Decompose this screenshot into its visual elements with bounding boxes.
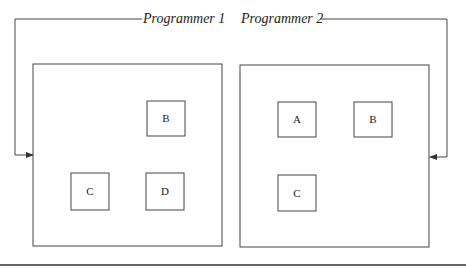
- programmer2-label: Programmer 2: [241, 12, 323, 26]
- left-box-b-label: B: [147, 113, 185, 124]
- right-box-b-label: B: [354, 114, 392, 125]
- programmer2-connector: [320, 19, 447, 157]
- programmer1-label: Programmer 1: [143, 12, 225, 26]
- left-box-d-label: D: [146, 186, 184, 197]
- diagram-canvas: [0, 0, 466, 269]
- programmer1-connector: [15, 19, 142, 155]
- right-box-a-label: A: [278, 114, 316, 125]
- left-window: [33, 64, 222, 246]
- left-box-c-label: C: [71, 186, 109, 197]
- right-window: [240, 65, 429, 247]
- right-box-c-label: C: [278, 188, 316, 199]
